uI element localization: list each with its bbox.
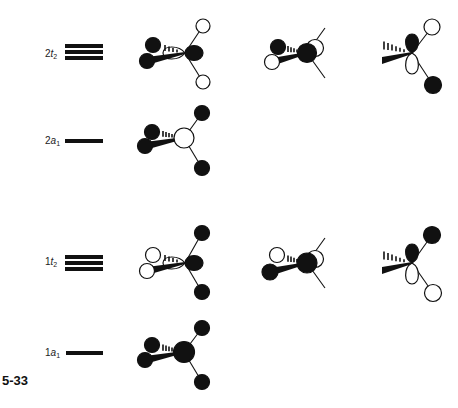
- central-lobe-right: [185, 256, 203, 271]
- energy-bar: [65, 267, 103, 271]
- level-label-2t2: 2t2: [45, 48, 57, 60]
- h-atom-bottom: [195, 285, 210, 300]
- h-atom-top: [195, 226, 210, 241]
- energy-bar: [65, 255, 103, 259]
- central-lobe-up: [406, 34, 419, 53]
- energy-bar: [65, 56, 103, 60]
- central-lobe-down: [406, 53, 419, 74]
- energy-bar: [66, 351, 103, 355]
- central-s-orbital: [174, 128, 194, 148]
- h-atom-front: [140, 264, 155, 279]
- h-atom-top: [196, 19, 210, 33]
- hashed-wedge: [288, 46, 297, 53]
- h-atom-bottom: [425, 77, 442, 94]
- h-atom-bottom: [196, 75, 210, 89]
- h-atom-back: [146, 38, 161, 53]
- orbital-1t2-a: [140, 226, 210, 300]
- level-label-1t2: 1t2: [45, 256, 57, 268]
- energy-bar: [65, 139, 103, 143]
- central-lobe-up: [406, 244, 419, 263]
- h-atom-top: [424, 19, 440, 35]
- h-atom-top: [195, 106, 210, 121]
- h-atom-front: [138, 353, 153, 368]
- orbital-2t2-b: [265, 28, 326, 78]
- energy-bar: [65, 44, 103, 48]
- h-atom-back: [271, 40, 286, 55]
- energy-level-bars-1t2: [65, 255, 103, 271]
- h-atom-back: [270, 248, 285, 263]
- energy-bar: [65, 50, 103, 54]
- hashed-wedge: [384, 252, 404, 263]
- mo-diagram: 2t2: [0, 0, 458, 408]
- level-1t2: 1t2: [45, 226, 442, 302]
- h-atom-bottom: [425, 285, 442, 302]
- figure-number: 5-33: [2, 373, 28, 388]
- hashed-wedge: [163, 131, 172, 138]
- h-atom-top: [424, 227, 441, 244]
- orbital-2t2-a: [140, 19, 211, 89]
- central-lobe-right: [185, 46, 203, 61]
- h-atom-front: [140, 54, 155, 69]
- h-atom-bottom: [195, 375, 210, 390]
- level-2a1: 2a1: [45, 106, 210, 176]
- h-atom-front: [138, 139, 153, 154]
- orbital-1t2-b: [262, 238, 325, 288]
- energy-bar: [65, 261, 103, 265]
- central-lobe-front: [297, 253, 317, 273]
- h-atom-front: [262, 264, 278, 280]
- hashed-wedge: [163, 345, 172, 352]
- energy-level-bars-2t2: [65, 44, 103, 60]
- h-atom-front: [265, 55, 280, 70]
- central-s-orbital: [174, 342, 195, 363]
- h-atom-bottom: [195, 161, 210, 176]
- orbital-1t2-c: [382, 227, 442, 302]
- hashed-wedge: [384, 42, 404, 53]
- level-label-1a1: 1a1: [45, 347, 60, 359]
- central-lobe-down: [406, 263, 419, 284]
- level-2t2: 2t2: [45, 19, 442, 94]
- h-atom-back: [145, 338, 160, 353]
- h-atom-back: [145, 125, 160, 140]
- orbital-2t2-c: [382, 19, 442, 94]
- orbital-1a1: [138, 321, 210, 390]
- level-1a1: 1a1: [45, 321, 210, 390]
- central-lobe-front: [298, 44, 317, 63]
- hashed-wedge: [288, 255, 297, 262]
- h-atom-back: [146, 248, 161, 263]
- level-label-2a1: 2a1: [45, 135, 60, 147]
- h-atom-top: [195, 321, 210, 336]
- orbital-2a1: [138, 106, 210, 176]
